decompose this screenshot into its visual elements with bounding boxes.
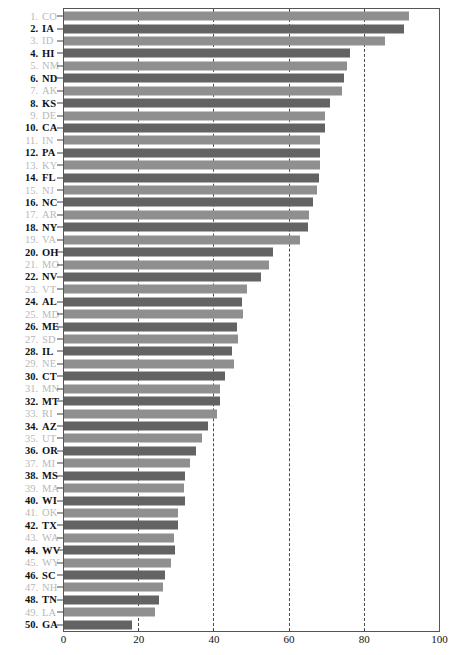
bar xyxy=(64,223,308,232)
bar xyxy=(64,546,175,555)
bar-row: 12.PA xyxy=(0,147,453,159)
rank-label: 8. xyxy=(4,98,38,109)
axis-tick-mark xyxy=(57,227,63,228)
bar xyxy=(64,12,409,21)
bar xyxy=(64,446,196,455)
rank-label: 39. xyxy=(4,483,38,494)
bar-row: 23.VT xyxy=(0,283,453,295)
rank-label: 17. xyxy=(4,209,38,220)
rank-label: 34. xyxy=(4,421,38,432)
bar-row: 29.NE xyxy=(0,358,453,370)
bar-row: 5.NM xyxy=(0,60,453,72)
rank-label: 25. xyxy=(4,309,38,320)
bar-row: 41.OK xyxy=(0,507,453,519)
x-axis: 020406080100 xyxy=(0,632,453,655)
bar-row: 43.WA xyxy=(0,532,453,544)
bar-row: 39.MA xyxy=(0,482,453,494)
rank-label: 7. xyxy=(4,85,38,96)
bar xyxy=(64,148,320,157)
x-tick-label: 80 xyxy=(359,632,370,646)
rank-label: 26. xyxy=(4,321,38,332)
bar xyxy=(64,583,163,592)
rank-label: 21. xyxy=(4,259,38,270)
axis-tick-mark xyxy=(57,351,63,352)
rank-label: 29. xyxy=(4,358,38,369)
rank-label: 18. xyxy=(4,222,38,233)
axis-tick-mark xyxy=(57,525,63,526)
rank-label: 41. xyxy=(4,507,38,518)
rank-label: 27. xyxy=(4,334,38,345)
x-tick-label: 20 xyxy=(133,632,144,646)
rank-label: 37. xyxy=(4,458,38,469)
rank-label: 40. xyxy=(4,495,38,506)
rank-label: 44. xyxy=(4,545,38,556)
bar-row: 32.MT xyxy=(0,395,453,407)
rank-label: 38. xyxy=(4,470,38,481)
axis-tick-mark xyxy=(57,550,63,551)
bar xyxy=(64,533,174,542)
bar xyxy=(64,347,232,356)
axis-tick-mark xyxy=(57,599,63,600)
bar-row: 49.LA xyxy=(0,606,453,618)
bar-row: 4.HI xyxy=(0,47,453,59)
bar-row: 7.AK xyxy=(0,85,453,97)
x-tick-label: 60 xyxy=(284,632,295,646)
rank-label: 35. xyxy=(4,433,38,444)
bar xyxy=(64,235,300,244)
bar-row: 19.VA xyxy=(0,234,453,246)
rank-label: 14. xyxy=(4,172,38,183)
rank-label: 23. xyxy=(4,284,38,295)
bar-row: 9.DE xyxy=(0,109,453,121)
bar-row: 37.MI xyxy=(0,457,453,469)
rank-label: 11. xyxy=(4,135,38,146)
rank-label: 3. xyxy=(4,35,38,46)
axis-tick-mark xyxy=(57,252,63,253)
bar-row: 47.NH xyxy=(0,581,453,593)
bar xyxy=(64,359,234,368)
bar-row: 11.IN xyxy=(0,134,453,146)
rank-label: 47. xyxy=(4,582,38,593)
bar xyxy=(64,210,309,219)
bar xyxy=(64,558,171,567)
bar-row: 40.WI xyxy=(0,494,453,506)
bar-row: 45.WY xyxy=(0,556,453,568)
bar xyxy=(64,297,242,306)
bar xyxy=(64,285,247,294)
bar xyxy=(64,571,165,580)
x-tick-label: 100 xyxy=(431,632,448,646)
bar xyxy=(64,99,330,108)
bar-row: 6.ND xyxy=(0,72,453,84)
rank-label: 42. xyxy=(4,520,38,531)
axis-tick-mark xyxy=(57,413,63,414)
bar xyxy=(64,161,320,170)
bar xyxy=(64,36,385,45)
rank-label: 22. xyxy=(4,271,38,282)
bar xyxy=(64,260,269,269)
bar-row: 22.NV xyxy=(0,271,453,283)
rank-label: 4. xyxy=(4,48,38,59)
rank-label: 20. xyxy=(4,247,38,258)
x-tick-label: 0 xyxy=(61,632,67,646)
bar xyxy=(64,471,185,480)
rank-label: 5. xyxy=(4,60,38,71)
bar xyxy=(64,123,325,132)
bar-row: 27.SD xyxy=(0,333,453,345)
axis-tick-mark xyxy=(57,562,63,563)
bar-row: 1.CO xyxy=(0,10,453,22)
axis-tick-mark xyxy=(57,500,63,501)
bar-row: 35.UT xyxy=(0,432,453,444)
bar-row: 25.MD xyxy=(0,308,453,320)
bar xyxy=(64,459,190,468)
rank-label: 9. xyxy=(4,110,38,121)
rank-label: 28. xyxy=(4,346,38,357)
bar-row: 13.KY xyxy=(0,159,453,171)
axis-tick-mark xyxy=(57,90,63,91)
bar-row: 14.FL xyxy=(0,171,453,183)
rank-label: 46. xyxy=(4,570,38,581)
axis-tick-mark xyxy=(57,16,63,17)
bar-row: 30.CT xyxy=(0,370,453,382)
axis-tick-mark xyxy=(57,65,63,66)
axis-tick-mark xyxy=(57,363,63,364)
axis-tick-mark xyxy=(57,53,63,54)
bar-row: 8.KS xyxy=(0,97,453,109)
